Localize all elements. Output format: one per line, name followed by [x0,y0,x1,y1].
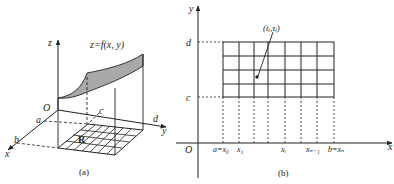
tick-xn-label: b=xₙ [328,145,344,154]
bound-b-label: b [14,134,19,145]
panel-a: z z=f(x, y) O a b c d y x R (a) [4,37,167,177]
panel-b: y x d c O a=x₀ x₁ xᵢ xₙ₋₁ b=xₙ (tᵢ,τᵢ) (… [176,3,393,178]
x-axis-label-b: x [387,141,393,152]
origin-label: O [43,102,50,113]
tick-xn1-label: xₙ₋₁ [305,145,320,154]
partition-grid [223,42,334,97]
region-r-grid [58,124,143,155]
caption-b: (b) [278,168,289,178]
tick-c-label: c [186,92,191,103]
point-label: (tᵢ,τᵢ) [263,23,280,33]
function-label: z=f(x, y) [89,39,125,51]
z-axis-label: z [47,37,52,48]
dashed-guides [198,42,334,143]
bound-c-label: c [99,105,104,116]
region-label: R [78,134,86,145]
bound-d-label: d [153,113,159,124]
x-axis-label: x [4,148,10,159]
y-axis [58,110,166,127]
tick-x0-label: a=x₀ [213,145,229,154]
caption-a: (a) [79,167,89,177]
double-integral-figure: z z=f(x, y) O a b c d y x R (a) [0,0,394,184]
y-axis-label-b: y [188,3,194,14]
y-axis-label: y [161,125,167,136]
tick-d-label: d [186,37,192,48]
tick-x1-label: x₁ [236,145,244,154]
leader-line [258,32,273,76]
bound-a-label: a [36,114,41,125]
surface-f [58,54,143,98]
sample-point [255,75,258,78]
origin-label-b: O [185,144,192,155]
tick-xi-label: xᵢ [280,145,286,154]
